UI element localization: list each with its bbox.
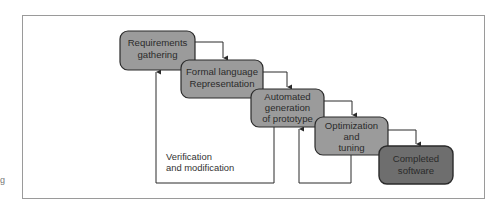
- svg-text:software: software: [398, 165, 434, 176]
- svg-text:and modification: and modification: [166, 162, 234, 173]
- step-box-optimization: Optimization and tuning: [315, 117, 388, 155]
- svg-text:Automated: Automated: [264, 91, 310, 102]
- svg-text:Optimization: Optimization: [325, 120, 378, 131]
- svg-text:of prototype: of prototype: [262, 113, 313, 124]
- svg-text:Formal language: Formal language: [186, 66, 258, 77]
- svg-text:and: and: [343, 131, 359, 142]
- feedback-label: Verification and modification: [166, 151, 234, 173]
- svg-text:Requirements: Requirements: [128, 37, 188, 48]
- step-box-automated-generation: Automated generation of prototype: [251, 89, 324, 127]
- margin-fragment-text: g: [0, 175, 5, 185]
- svg-text:generation: generation: [265, 102, 310, 113]
- step-box-formal-language: Formal language Representation: [181, 60, 263, 98]
- svg-text:Representation: Representation: [189, 78, 254, 89]
- waterfall-diagram: Requirements gathering Formal language R…: [0, 0, 503, 211]
- svg-text:Completed: Completed: [393, 153, 439, 164]
- svg-text:gathering: gathering: [137, 49, 177, 60]
- diagram-canvas: g Requirements gathering: [0, 0, 503, 211]
- svg-text:Verification: Verification: [166, 151, 212, 162]
- step-box-completed: Completed software: [379, 146, 453, 184]
- svg-text:tuning: tuning: [338, 142, 364, 153]
